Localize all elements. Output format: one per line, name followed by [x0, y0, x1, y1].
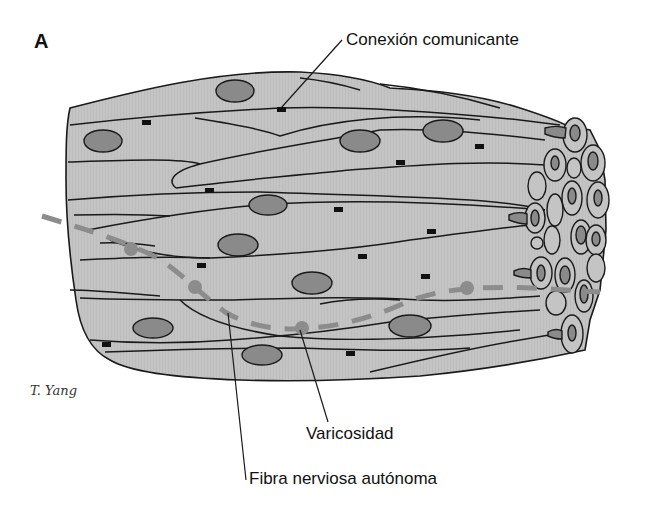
- gap-junction-marker: [475, 144, 484, 149]
- nucleus: [216, 80, 254, 102]
- nucleus: [242, 345, 282, 365]
- gap-junction-marker: [396, 160, 405, 165]
- label-varicosity: Varicosidad: [306, 424, 394, 444]
- gap-junction-marker: [358, 254, 367, 259]
- nucleus: [423, 120, 463, 142]
- artist-signature: T. Yang: [30, 383, 77, 398]
- nucleus: [389, 315, 431, 337]
- nucleus: [133, 318, 173, 338]
- label-autonomic-nerve-fiber: Fibra nerviosa autónoma: [249, 469, 437, 489]
- nucleus: [292, 272, 332, 294]
- varicosity-marker: [460, 281, 474, 295]
- gap-junction-marker: [421, 274, 430, 279]
- nucleus: [218, 234, 258, 256]
- nucleus: [249, 195, 287, 215]
- gap-junction-marker: [142, 120, 151, 125]
- gap-junction-marker: [205, 188, 214, 193]
- gap-junction-marker: [334, 207, 343, 212]
- gap-junction-marker: [102, 342, 111, 347]
- nucleus: [84, 130, 122, 152]
- varicosity-marker: [295, 321, 309, 335]
- varicosity-marker: [188, 280, 202, 294]
- varicosity-marker: [124, 242, 138, 256]
- nucleus: [340, 130, 380, 152]
- gap-junction-marker: [197, 263, 206, 268]
- gap-junction-marker: [346, 351, 355, 356]
- gap-junction-marker: [427, 229, 436, 234]
- label-gap-junction: Conexión comunicante: [346, 30, 519, 50]
